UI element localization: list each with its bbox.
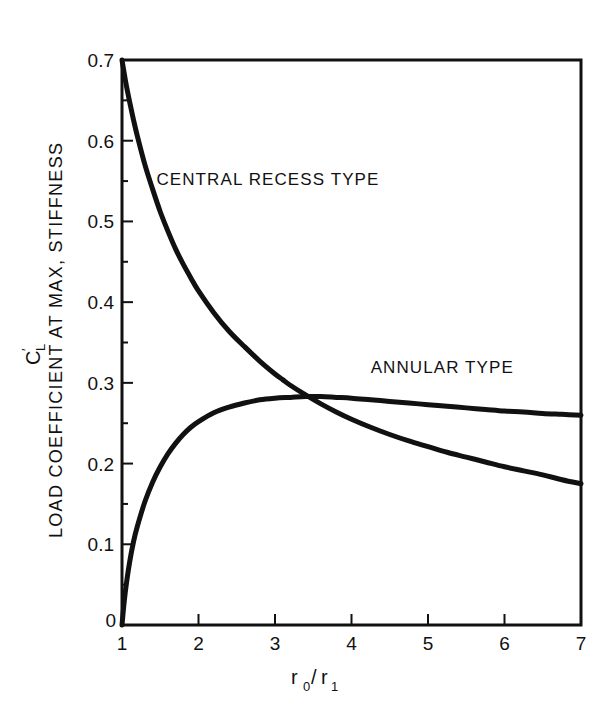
x-tick-label: 1 — [117, 633, 128, 654]
y-axis-title: LOAD COEFFICIENT AT MAX, STIFFNESS — [46, 142, 66, 538]
y-tick-label: 0 — [105, 610, 116, 631]
x-tick-label: 3 — [270, 633, 281, 654]
y-tick-label: 0.4 — [88, 292, 115, 313]
x-axis-title-base2: r — [321, 666, 328, 688]
y-axis-symbol-subscript: L — [33, 344, 48, 351]
x-tick-label: 6 — [499, 633, 510, 654]
chart-background — [0, 0, 613, 724]
y-tick-label: 0.2 — [88, 454, 114, 475]
y-axis-symbol-base: C — [22, 351, 44, 365]
y-tick-label: 0.1 — [88, 534, 114, 555]
y-tick-label: 0.5 — [88, 211, 114, 232]
y-tick-label: 0.3 — [88, 373, 114, 394]
figure-container: 1234567 00.10.20.30.40.50.60.7 CENTRAL R… — [0, 0, 613, 724]
curve-label-annular-type: ANNULAR TYPE — [371, 358, 514, 377]
x-axis-title-base1: r — [291, 666, 298, 688]
x-tick-label: 5 — [423, 633, 434, 654]
x-axis-title-sub2: 1 — [331, 679, 338, 694]
x-tick-label: 2 — [193, 633, 204, 654]
curve-label-central-recess-type: CENTRAL RECESS TYPE — [156, 170, 379, 189]
y-tick-label: 0.7 — [88, 50, 114, 71]
x-tick-label: 4 — [346, 633, 357, 654]
x-axis-title-sub1: 0 — [303, 679, 310, 694]
x-axis-title-slash: / — [311, 666, 317, 688]
load-coefficient-chart: 1234567 00.10.20.30.40.50.60.7 CENTRAL R… — [0, 0, 613, 724]
x-tick-label: 7 — [576, 633, 587, 654]
y-tick-label: 0.6 — [88, 131, 114, 152]
